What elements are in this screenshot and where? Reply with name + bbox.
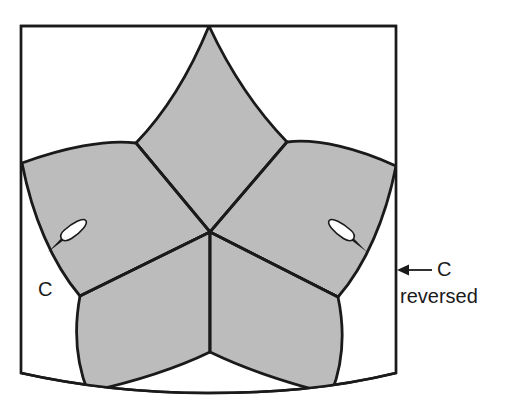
label-c-right-line2: reversed (400, 285, 478, 307)
label-c-left: C (38, 278, 52, 300)
arrow-left-icon (397, 265, 432, 276)
arrow-head (397, 265, 409, 276)
label-c-right-line1: C (437, 258, 451, 280)
petal-diagram-svg: C C reversed (0, 0, 510, 408)
figure-container: C C reversed (0, 0, 510, 408)
